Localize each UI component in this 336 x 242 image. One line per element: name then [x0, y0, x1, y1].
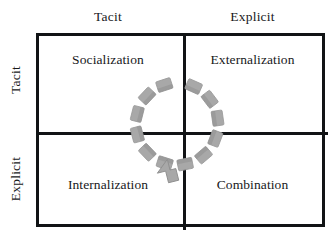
quadrant-label-internalization: Internalization — [36, 177, 180, 193]
row-header-tacit: Tacit — [8, 31, 24, 129]
column-header-tacit: Tacit — [36, 9, 180, 25]
quadrant-label-socialization: Socialization — [36, 52, 180, 68]
row-header-explicit: Explicit — [8, 130, 24, 228]
column-header-explicit: Explicit — [180, 9, 325, 25]
horizontal-divider — [39, 132, 328, 135]
seci-matrix-diagram: Tacit Explicit Tacit Explicit Socializat… — [0, 0, 336, 242]
quadrant-label-externalization: Externalization — [180, 52, 325, 68]
quadrant-label-combination: Combination — [180, 177, 325, 193]
